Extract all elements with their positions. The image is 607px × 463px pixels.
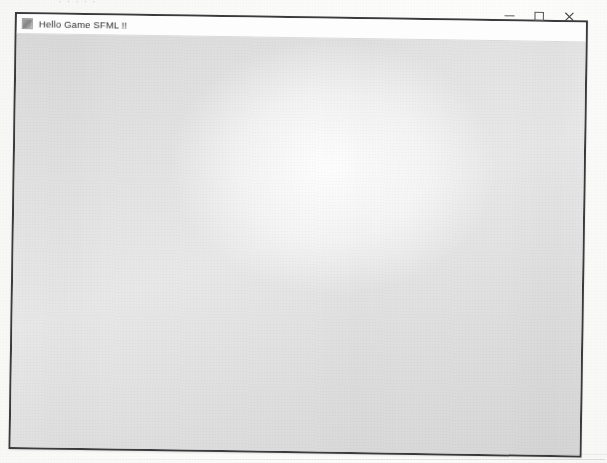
maximize-button[interactable] [524,9,554,23]
window-title: Hello Game SFML !! [39,19,128,30]
scanned-page: · · · · · Hello Game SFML !! [0,0,607,463]
client-area-banding [11,34,586,455]
window-controls [494,8,584,23]
page-cutoff-text: · · · · · [58,0,97,8]
application-icon [22,18,33,29]
application-window[interactable]: Hello Game SFML !! [9,12,588,457]
close-button[interactable] [554,9,584,23]
close-icon [562,11,575,22]
game-render-area[interactable] [11,34,586,455]
minimize-button[interactable] [494,8,524,22]
maximize-icon [532,10,545,21]
page-bottom-rule [16,459,605,460]
page-bottom-rule-secondary [300,454,607,455]
client-area-grain [11,34,586,455]
minimize-icon [502,10,515,20]
